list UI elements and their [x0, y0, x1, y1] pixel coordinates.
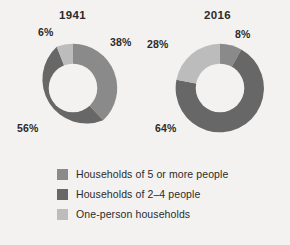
pct-label-2016-one-person: 28% [147, 38, 169, 50]
donut-hole-1941 [49, 64, 98, 113]
donut-panel-2016: 2016 8% 64% 28% [145, 0, 290, 155]
donut-chart-1941 [25, 40, 121, 136]
legend-label-five-or-more: Households of 5 or more people [76, 168, 228, 180]
pct-label-1941-two-to-four: 56% [17, 122, 39, 134]
chart-title-1941: 1941 [0, 9, 145, 21]
legend-swatch-one-person [57, 209, 68, 220]
legend-item-two-to-four: Households of 2–4 people [57, 184, 282, 204]
legend-swatch-five-or-more [57, 169, 68, 180]
donut-hole-2016 [196, 64, 245, 113]
pct-label-1941-five-or-more: 38% [110, 36, 132, 48]
donut-panel-1941: 1941 38% 56% 6% [0, 0, 145, 155]
pct-label-2016-two-to-four: 64% [155, 122, 177, 134]
pct-label-2016-five-or-more: 8% [235, 28, 251, 40]
pct-label-1941-one-person: 6% [38, 26, 54, 38]
donut-chart-2016 [172, 40, 268, 136]
legend-swatch-two-to-four [57, 189, 68, 200]
legend-item-one-person: One-person households [57, 204, 282, 224]
legend-label-two-to-four: Households of 2–4 people [76, 188, 200, 200]
chart-title-2016: 2016 [145, 9, 290, 21]
legend: Households of 5 or more people Household… [57, 164, 282, 224]
legend-label-one-person: One-person households [76, 208, 190, 220]
charts-row: 1941 38% 56% 6% 2016 [0, 0, 290, 155]
household-size-donut-figure: 1941 38% 56% 6% 2016 [0, 0, 290, 245]
legend-item-five-or-more: Households of 5 or more people [57, 164, 282, 184]
